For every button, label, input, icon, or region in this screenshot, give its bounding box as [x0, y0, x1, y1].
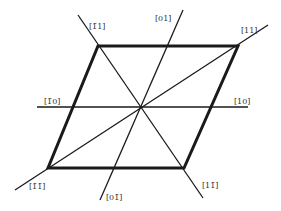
- label-m1-1: [1̄1]: [89, 22, 105, 31]
- label-m1-0: [1̄0]: [44, 97, 60, 106]
- label-1-m1: [11̄]: [202, 181, 218, 190]
- label-m1-m1: [1̄1̄]: [29, 182, 45, 191]
- label-0-1: [01]: [155, 14, 171, 23]
- label-0-m1: [01̄]: [106, 193, 122, 202]
- lattice-direction-diagram: [1̄1] [01] [11] [1̄0] [10] [1̄1̄] [01̄] …: [0, 0, 281, 211]
- label-1-0: [10]: [234, 97, 250, 106]
- label-1-1: [11]: [241, 26, 257, 35]
- axis-01: [100, 10, 183, 200]
